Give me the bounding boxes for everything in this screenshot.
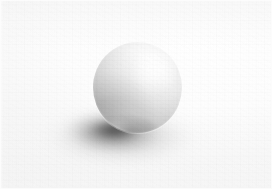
backdrop-compression-mottle [0, 0, 272, 189]
sphere-photograph: A matte white sphere resting on a seamle… [0, 0, 272, 189]
